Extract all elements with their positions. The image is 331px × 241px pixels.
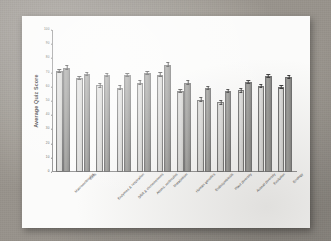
bar[interactable] — [96, 85, 103, 172]
bar-slot — [117, 30, 124, 172]
bar[interactable] — [238, 90, 245, 172]
error-bar-cap-bottom — [279, 88, 282, 89]
bar-slot — [177, 30, 184, 172]
bar[interactable] — [245, 82, 252, 172]
error-bar-cap-top — [226, 89, 229, 90]
error-bar-cap-bottom — [259, 87, 262, 88]
bar-slot — [265, 30, 272, 172]
bar[interactable] — [157, 75, 164, 172]
bar-group — [177, 30, 191, 172]
error-bar-cap-bottom — [287, 78, 290, 79]
error-bar-cap-bottom — [126, 76, 129, 77]
error-bar-cap-top — [186, 80, 189, 81]
error-bar-cap-top — [179, 89, 182, 90]
x-tick-label: Plant diversity — [235, 173, 253, 191]
y-tick-label: 50 — [46, 99, 50, 102]
error-bar-cap-top — [239, 88, 242, 89]
bar[interactable] — [117, 88, 124, 172]
y-tick-label: 30 — [46, 128, 50, 131]
error-bar-cap-bottom — [58, 72, 61, 73]
bar-slot — [137, 30, 144, 172]
bar[interactable] — [124, 75, 131, 172]
x-tick-label: Endosymbiosis — [215, 173, 235, 193]
bar-slot — [96, 30, 103, 172]
bar[interactable] — [197, 100, 204, 172]
bar-groups — [52, 30, 295, 172]
error-bar-cap-bottom — [219, 104, 222, 105]
error-bar-cap-bottom — [78, 79, 81, 80]
y-tick-label: 20 — [46, 142, 50, 145]
error-bar-cap-bottom — [226, 92, 229, 93]
y-tick-label: 70 — [46, 71, 50, 74]
error-bar-cap-top — [267, 74, 270, 75]
bar[interactable] — [265, 76, 272, 172]
error-bar-cap-bottom — [247, 83, 250, 84]
bar-slot — [84, 30, 91, 172]
y-tick-label: 0 — [48, 170, 50, 173]
error-bar-cap-bottom — [98, 87, 101, 88]
bar[interactable] — [278, 87, 285, 172]
bar[interactable] — [76, 78, 83, 172]
error-bar-cap-top — [85, 72, 88, 73]
bar-slot — [104, 30, 111, 172]
error-bar-cap-bottom — [118, 89, 121, 90]
error-bar-cap-bottom — [158, 76, 161, 77]
y-tick-label: 80 — [46, 57, 50, 60]
error-bar-cap-top — [279, 85, 282, 86]
bar[interactable] — [104, 75, 111, 172]
error-bar-cap-top — [126, 73, 129, 74]
bar-group — [197, 30, 211, 172]
error-bar-cap-bottom — [166, 66, 169, 67]
bar-slot — [56, 30, 63, 172]
x-axis-labels: MacromoleculesCellsEnzymes & respiration… — [52, 173, 295, 223]
bar-group — [238, 30, 252, 172]
bar-slot — [205, 30, 212, 172]
bar[interactable] — [144, 73, 151, 172]
bar[interactable] — [177, 91, 184, 172]
bar[interactable] — [56, 71, 63, 172]
bar-group — [117, 30, 131, 172]
bar[interactable] — [225, 91, 232, 172]
bar-slot — [258, 30, 265, 172]
bar[interactable] — [137, 83, 144, 172]
error-bar-cap-top — [58, 69, 61, 70]
error-bar-cap-top — [199, 97, 202, 98]
error-bar-cap-top — [259, 84, 262, 85]
bar-slot — [278, 30, 285, 172]
bar[interactable] — [258, 86, 265, 172]
error-bar-cap-bottom — [199, 101, 202, 102]
bar-slot — [225, 30, 232, 172]
bar[interactable] — [184, 83, 191, 172]
error-bar-cap-bottom — [105, 76, 108, 77]
bar-slot — [157, 30, 164, 172]
bar-slot — [197, 30, 204, 172]
error-bar-cap-bottom — [85, 75, 88, 76]
y-tick-label: 40 — [46, 114, 50, 117]
x-tick-label: Cells — [89, 173, 97, 181]
bar[interactable] — [63, 68, 70, 172]
bar-group — [56, 30, 70, 172]
bar-group — [278, 30, 292, 172]
bar[interactable] — [205, 88, 212, 172]
bar[interactable] — [84, 74, 91, 172]
error-bar-cap-bottom — [65, 69, 68, 70]
bar[interactable] — [217, 102, 224, 172]
y-tick-label: 60 — [46, 85, 50, 88]
error-bar-cap-top — [158, 72, 161, 73]
chart-card: Average Quiz Score 010203040506070809010… — [22, 16, 310, 228]
bar-slot — [63, 30, 70, 172]
bar[interactable] — [164, 65, 171, 172]
error-bar-cap-bottom — [179, 92, 182, 93]
bar-group — [96, 30, 110, 172]
bar-group — [76, 30, 90, 172]
bar-slot — [217, 30, 224, 172]
error-bar-cap-bottom — [186, 84, 189, 85]
bar-group — [137, 30, 151, 172]
y-tick-label: 90 — [46, 43, 50, 46]
y-tick-label: 100 — [44, 28, 49, 31]
error-bar-cap-top — [206, 86, 209, 87]
error-bar-cap-top — [138, 80, 141, 81]
bar[interactable] — [285, 77, 292, 172]
y-axis-title-label: Average Quiz Score — [33, 74, 39, 127]
bar-slot — [184, 30, 191, 172]
